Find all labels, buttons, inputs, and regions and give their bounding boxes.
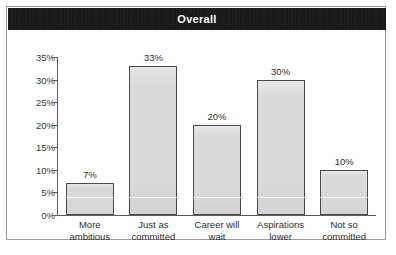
y-axis-tick-label: 0% bbox=[15, 210, 55, 221]
bar[interactable] bbox=[66, 183, 114, 215]
y-axis-tick-labels: 0%5%10%15%20%25%30%35% bbox=[11, 31, 55, 239]
page-title: Overall bbox=[177, 13, 216, 25]
y-axis-tick-label: 15% bbox=[15, 142, 55, 153]
bar-value-label: 30% bbox=[271, 66, 290, 77]
y-axis-tick-label: 5% bbox=[15, 187, 55, 198]
y-axis-tick-mark bbox=[52, 170, 57, 171]
y-axis-tick-mark bbox=[52, 192, 57, 193]
bar-value-label: 10% bbox=[335, 156, 354, 167]
bar-value-label: 7% bbox=[83, 169, 97, 180]
y-axis-tick-mark bbox=[52, 57, 57, 58]
bar-value-label: 20% bbox=[207, 111, 226, 122]
bar[interactable] bbox=[129, 66, 177, 215]
y-axis-tick-label: 35% bbox=[15, 52, 55, 63]
y-axis-tick-label: 10% bbox=[15, 164, 55, 175]
chart-frame: Overall 0%5%10%15%20%25%30%35% 7%33%20%3… bbox=[6, 6, 386, 240]
bar[interactable] bbox=[320, 170, 368, 215]
bars-layer: 7%33%20%30%10% bbox=[58, 31, 376, 216]
x-axis-tick-label: Moreambitious bbox=[69, 219, 110, 242]
y-axis-tick-label: 30% bbox=[15, 74, 55, 85]
chart-title-banner: Overall bbox=[8, 8, 386, 30]
bar-value-label: 33% bbox=[144, 52, 163, 63]
y-axis-tick-mark bbox=[52, 102, 57, 103]
y-axis-tick-label: 25% bbox=[15, 97, 55, 108]
y-axis-tick-mark bbox=[52, 125, 57, 126]
y-axis-tick-label: 20% bbox=[15, 119, 55, 130]
x-axis-tick-label: Not socommitted bbox=[322, 219, 366, 242]
bar[interactable] bbox=[257, 80, 305, 215]
x-axis-tick-label: Career willwait bbox=[195, 219, 240, 242]
y-axis-tick-mark bbox=[52, 215, 57, 216]
x-axis-tick-label: Aspirationslower bbox=[257, 219, 304, 242]
y-axis-tick-mark bbox=[52, 80, 57, 81]
y-axis-tick-mark bbox=[52, 147, 57, 148]
x-axis-tick-labels: MoreambitiousJust ascommittedCareer will… bbox=[58, 219, 376, 255]
x-axis-tick-label: Just ascommitted bbox=[131, 219, 175, 242]
bar[interactable] bbox=[193, 125, 241, 215]
plot-area: 0%5%10%15%20%25%30%35% 7%33%20%30%10% Mo… bbox=[7, 31, 385, 239]
